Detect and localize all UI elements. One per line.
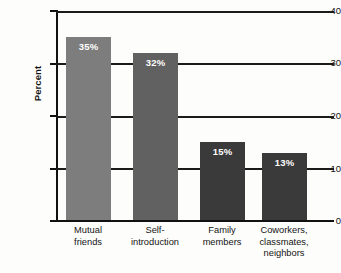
bar-mutual-friends: 35% (66, 37, 111, 221)
x-axis-line (56, 220, 334, 222)
gridline-40 (56, 11, 334, 13)
bar-family-members: 15% (200, 142, 245, 221)
x-tick-label-line: classmates, (240, 237, 328, 249)
chart-figure: Percent 40 30 20 10 0 35% 32% 15% 13% Mu… (0, 0, 341, 273)
bar-coworkers-classmates-neighbors: 13% (262, 153, 307, 221)
x-tick-label-line: neighbors (240, 248, 328, 260)
plot-area: 35% 32% 15% 13% (56, 11, 334, 221)
bar-value-label: 35% (66, 41, 111, 52)
bar-value-label: 13% (262, 157, 307, 168)
y-axis-title: Percent (32, 49, 43, 119)
x-tick-label-coworkers-classmates-neighbors: Coworkers, classmates, neighbors (240, 225, 328, 260)
bar-self-introduction: 32% (133, 53, 178, 221)
x-tick-label-line: Coworkers, (240, 225, 328, 237)
bar-value-label: 32% (133, 57, 178, 68)
bar-value-label: 15% (200, 146, 245, 157)
